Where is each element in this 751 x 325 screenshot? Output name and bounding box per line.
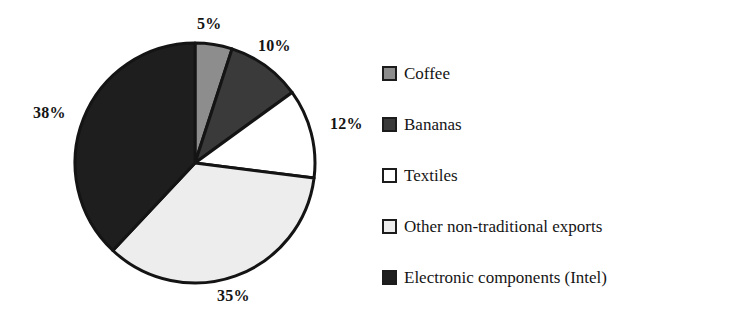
legend-swatch-icon — [382, 168, 397, 183]
pie-plot-area: 5% 10% 12% 38% 35% — [0, 0, 375, 325]
legend-item-label: Electronic components (Intel) — [404, 269, 607, 286]
pie-slice-group — [75, 43, 315, 283]
pie-label-other: 35% — [217, 288, 250, 304]
pie-svg — [0, 0, 375, 325]
pie-label-coffee: 5% — [197, 16, 221, 32]
legend-swatch-icon — [382, 270, 397, 285]
legend-swatch-icon — [382, 66, 397, 81]
legend-item[interactable]: Other non-traditional exports — [382, 201, 742, 252]
legend-swatch-icon — [382, 219, 397, 234]
legend-item-label: Textiles — [404, 167, 458, 184]
legend-item[interactable]: Textiles — [382, 150, 742, 201]
pie-label-bananas: 10% — [258, 38, 291, 54]
legend-item-label: Other non-traditional exports — [404, 218, 602, 235]
pie-chart-figure: 5% 10% 12% 38% 35% CoffeeBananasTextiles… — [0, 0, 751, 325]
pie-label-electronic: 38% — [33, 105, 66, 121]
pie-label-textiles: 12% — [330, 116, 363, 132]
legend-item[interactable]: Bananas — [382, 99, 742, 150]
legend-item[interactable]: Coffee — [382, 48, 742, 99]
legend-item-label: Bananas — [404, 116, 462, 133]
legend-swatch-icon — [382, 117, 397, 132]
chart-legend: CoffeeBananasTextilesOther non-tradition… — [382, 48, 742, 303]
legend-item[interactable]: Electronic components (Intel) — [382, 252, 742, 303]
legend-item-label: Coffee — [404, 65, 450, 82]
